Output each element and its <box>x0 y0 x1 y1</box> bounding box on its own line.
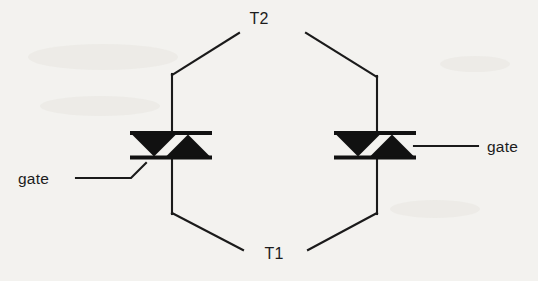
terminal-label-t1: T1 <box>264 245 283 262</box>
gate-label-left: gate <box>18 170 49 187</box>
gate-label-right: gate <box>487 138 518 155</box>
triac-right <box>334 133 416 158</box>
triac-left <box>130 133 212 158</box>
triac-diagram: T2 T1 gate gate <box>0 0 538 281</box>
wire-right-triac-to-t1 <box>308 213 377 250</box>
triac-schematic-canvas: T2 T1 gate gate <box>0 0 538 281</box>
wire-t2-to-left-triac <box>172 33 239 75</box>
label-group: T2 T1 gate gate <box>18 10 518 262</box>
wire-gate-left <box>76 163 146 178</box>
wire-group <box>76 33 478 250</box>
wire-t2-to-right-triac <box>306 33 377 77</box>
wire-left-triac-to-t1 <box>172 213 243 250</box>
terminal-label-t2: T2 <box>249 10 268 27</box>
